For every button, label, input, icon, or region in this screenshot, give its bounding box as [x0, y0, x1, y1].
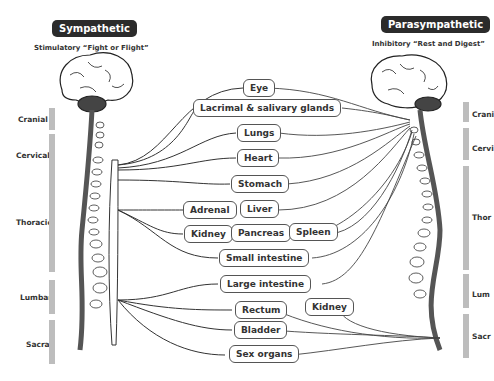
region-bar	[463, 102, 469, 122]
left-brain-icon	[60, 53, 132, 112]
region-bar	[49, 172, 55, 272]
region-bar	[463, 128, 469, 160]
region-thoracic-left: Thoracic	[16, 218, 52, 227]
region-bar	[49, 108, 55, 130]
region-bar	[463, 314, 469, 358]
organ-liver: Liver	[240, 200, 279, 218]
organ-kidney-parasympathetic: Kidney	[305, 298, 354, 316]
region-sacral-right: Sacr	[472, 332, 491, 341]
region-lumbar-left: Lumbar	[20, 293, 52, 302]
organ-eye: Eye	[243, 79, 275, 97]
organ-large-intestine: Large intestine	[220, 275, 311, 293]
region-bar	[49, 320, 55, 364]
organ-adrenal: Adrenal	[183, 201, 237, 219]
organ-rectum: Rectum	[235, 301, 287, 319]
region-bar	[463, 274, 469, 308]
region-cranial-right: Crani	[472, 110, 494, 119]
organ-small-intestine: Small intestine	[219, 249, 309, 267]
organ-heart: Heart	[237, 149, 279, 167]
region-bar	[49, 134, 55, 176]
sympathetic-title: Sympathetic	[52, 20, 137, 37]
organ-sex-organs: Sex organs	[229, 345, 299, 363]
region-cervical-left: Cervical	[16, 151, 50, 160]
organ-bladder: Bladder	[234, 321, 287, 339]
region-cervical-right: Cervi	[472, 144, 494, 153]
region-cranial-left: Cranial	[18, 115, 48, 124]
organ-lacrimal-salivary-glands: Lacrimal & salivary glands	[193, 99, 341, 117]
sympathetic-subtitle: Stimulatory “Fight or Flight”	[34, 44, 149, 52]
region-lumbar-right: Lum	[472, 290, 490, 299]
parasympathetic-subtitle: Inhibitory “Rest and Digest”	[372, 40, 485, 48]
organ-lungs: Lungs	[237, 124, 281, 142]
organ-stomach: Stomach	[231, 175, 289, 193]
organ-pancreas: Pancreas	[231, 224, 291, 242]
region-bar	[49, 280, 55, 314]
organ-spleen: Spleen	[289, 223, 338, 241]
parasympathetic-title: Parasympathetic	[381, 16, 490, 33]
region-thoracic-right: Thor	[472, 213, 491, 222]
organ-kidney: Kidney	[184, 225, 233, 243]
right-brain-icon	[371, 55, 446, 111]
region-bar	[463, 166, 469, 270]
